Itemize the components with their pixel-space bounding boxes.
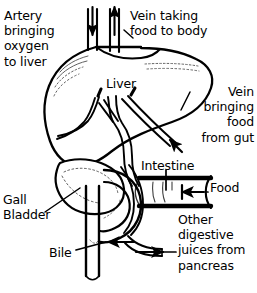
intestine-lumen-marks xyxy=(153,182,172,202)
label-gall-bladder: Gall Bladder xyxy=(3,192,50,222)
leader-line-bile xyxy=(76,242,106,250)
label-vein-bringing-food-from-gut: Vein bringing food from gut xyxy=(188,84,254,145)
label-intestine: Intestine xyxy=(141,158,194,173)
gall-bladder xyxy=(56,159,125,214)
arrow-food-into-intestine xyxy=(182,185,204,199)
label-other-digestive-juices-from-pancreas: Other digestive juices from pancreas xyxy=(178,212,245,273)
diagram-canvas: Artery bringing oxygen to liver Vein tak… xyxy=(0,0,257,293)
label-liver: Liver xyxy=(106,76,136,91)
label-food: Food xyxy=(210,180,239,195)
label-vein-taking-food-to-body: Vein taking food to body xyxy=(130,8,207,38)
label-artery-bringing-oxygen-to-liver: Artery bringing oxygen to liver xyxy=(4,8,55,69)
label-bile: Bile xyxy=(49,245,72,260)
